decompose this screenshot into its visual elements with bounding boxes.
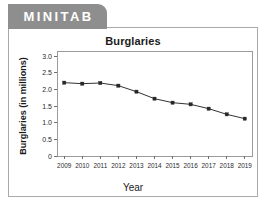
x-axis-title: Year (9, 182, 257, 193)
x-tick-label: 2018 (220, 162, 235, 169)
line-chart-svg: 00.51.01.52.02.53.0200920102011201220132… (30, 48, 256, 178)
x-tick-label: 2015 (165, 162, 180, 169)
minitab-figure-screenshot: MINITAB Burglaries Burglaries (in millio… (0, 0, 265, 208)
data-point-marker (153, 97, 156, 100)
y-tick-label: 2.5 (42, 69, 52, 76)
data-point-marker (225, 113, 228, 116)
y-axis-title: Burglaries (in millions) (18, 46, 28, 166)
x-tick-label: 2016 (184, 162, 199, 169)
data-point-marker (243, 117, 246, 120)
data-point-marker (81, 82, 84, 85)
data-point-marker (63, 81, 66, 84)
y-tick-label: 0.5 (42, 136, 52, 143)
y-tick-label: 1.0 (42, 119, 52, 126)
y-tick-label: 3.0 (42, 53, 52, 60)
chart-card: Burglaries Burglaries (in millions) 00.5… (8, 27, 258, 197)
plot-frame (58, 52, 253, 157)
x-tick-label: 2012 (111, 162, 126, 169)
data-point-marker (189, 103, 192, 106)
data-point-marker (207, 107, 210, 110)
data-point-marker (99, 81, 102, 84)
x-tick-label: 2013 (129, 162, 144, 169)
minitab-brand-tab: MINITAB (8, 4, 107, 29)
chart-title: Burglaries (9, 35, 257, 47)
x-tick-label: 2009 (57, 162, 72, 169)
data-point-marker (135, 90, 138, 93)
plot-area: 00.51.01.52.02.53.0200920102011201220132… (30, 48, 256, 178)
x-tick-label: 2011 (93, 162, 107, 169)
data-point-marker (117, 84, 120, 87)
x-tick-label: 2017 (202, 162, 217, 169)
y-tick-label: 2.0 (42, 86, 52, 93)
x-tick-label: 2019 (238, 162, 253, 169)
y-tick-label: 1.5 (42, 103, 52, 110)
minitab-brand-label: MINITAB (22, 10, 94, 23)
y-tick-label: 0 (48, 153, 52, 160)
data-point-marker (171, 101, 174, 104)
x-tick-label: 2014 (147, 162, 162, 169)
x-tick-label: 2010 (75, 162, 90, 169)
